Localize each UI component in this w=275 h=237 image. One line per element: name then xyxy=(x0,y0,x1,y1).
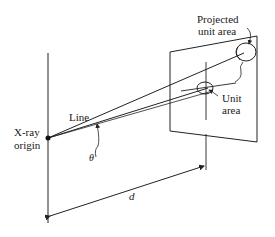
label-xray-origin-1: X-ray xyxy=(14,126,40,138)
xray-projection-diagram: Projected unit area Unit area Line θ X-r… xyxy=(0,0,275,237)
xray-origin-dot xyxy=(46,136,51,141)
plane-horizontal-axis xyxy=(181,83,236,91)
label-distance: d xyxy=(129,190,135,202)
theta-leader xyxy=(95,124,98,157)
label-unit-area-2: area xyxy=(222,104,240,116)
label-projected-unit-area-2: unit area xyxy=(198,25,236,37)
label-projected-unit-area-1: Projected xyxy=(197,13,239,25)
distance-dimension-line xyxy=(50,166,204,216)
label-line: Line xyxy=(69,111,89,123)
label-unit-area-1: Unit xyxy=(222,92,242,104)
detector-plane xyxy=(170,36,257,142)
projected-to-unit-leader xyxy=(235,62,243,82)
projected-area-inner-arc xyxy=(236,47,240,60)
label-xray-origin-2: origin xyxy=(14,139,41,151)
label-theta: θ xyxy=(89,152,94,163)
projected-unit-area-leader xyxy=(247,28,251,44)
ray-upper xyxy=(48,53,244,138)
